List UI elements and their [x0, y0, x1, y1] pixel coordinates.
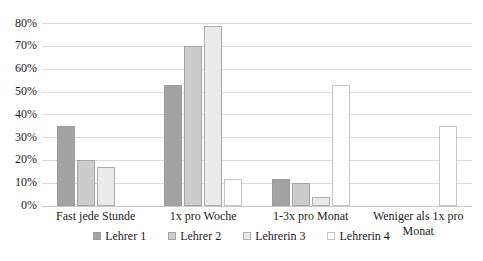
legend-swatch-icon: [93, 232, 101, 240]
y-tick-label: 40%: [0, 107, 37, 122]
bar-chart: 0%10%20%30%40%50%60%70%80% Fast jede Stu…: [0, 0, 483, 261]
bar-lehrerin-4: [332, 85, 350, 206]
legend-label: Lehrer 2: [180, 229, 221, 243]
bar-lehrer-2: [77, 160, 95, 206]
bar-lehrerin-4: [224, 179, 242, 206]
legend-label: Lehrer 1: [105, 229, 146, 243]
bar-lehrer-1: [272, 179, 290, 206]
legend-item: Lehrer 2: [168, 229, 221, 243]
legend-swatch-icon: [168, 232, 176, 240]
y-tick-label: 10%: [0, 175, 37, 190]
y-tick-label: 30%: [0, 130, 37, 145]
legend-item: Lehrerin 3: [243, 229, 305, 243]
bar-lehrerin-3: [204, 26, 222, 206]
category-group: [42, 16, 150, 206]
y-axis: 0%10%20%30%40%50%60%70%80%: [0, 0, 37, 261]
bar-lehrer-2: [184, 46, 202, 206]
legend-swatch-icon: [243, 232, 251, 240]
y-tick-label: 60%: [0, 61, 37, 76]
category-group: [365, 16, 473, 206]
bar-lehrer-2: [292, 183, 310, 206]
y-tick-label: 0%: [0, 198, 37, 213]
bar-lehrerin-4: [439, 126, 457, 206]
bar-lehrer-1: [57, 126, 75, 206]
bar-groups: [42, 16, 472, 206]
legend: Lehrer 1Lehrer 2Lehrerin 3Lehrerin 4: [0, 229, 483, 243]
legend-label: Lehrerin 3: [255, 229, 305, 243]
legend-swatch-icon: [327, 232, 335, 240]
y-tick-label: 50%: [0, 84, 37, 99]
legend-item: Lehrerin 4: [327, 229, 389, 243]
legend-item: Lehrer 1: [93, 229, 146, 243]
bar-lehrerin-3: [312, 197, 330, 206]
category-group: [150, 16, 258, 206]
bar-lehrerin-3: [97, 167, 115, 206]
y-tick-label: 70%: [0, 38, 37, 53]
legend-label: Lehrerin 4: [339, 229, 389, 243]
plot-area: [42, 16, 472, 207]
y-tick-label: 80%: [0, 16, 37, 31]
bar-lehrer-1: [164, 85, 182, 206]
category-group: [257, 16, 365, 206]
y-tick-label: 20%: [0, 152, 37, 167]
